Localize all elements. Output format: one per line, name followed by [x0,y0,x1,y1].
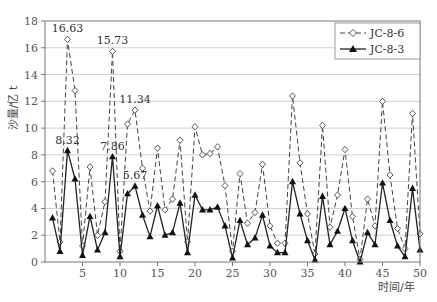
triangle-marker-icon [139,211,146,217]
value-annotation: 15.73 [97,34,129,47]
diamond-marker-icon [297,160,303,166]
diamond-marker-icon [380,98,386,104]
x-tick-label: 10 [113,267,127,280]
x-tick-label: 25 [226,267,240,280]
triangle-marker-icon [177,199,184,205]
triangle-marker-icon [297,210,304,216]
diamond-marker-icon [50,168,56,174]
triangle-marker-icon [387,217,394,223]
diamond-marker-icon [350,213,356,219]
y-tick-label: 10 [24,122,38,135]
y-tick-label: 6 [31,176,38,189]
y-tick-label: 8 [31,149,38,162]
triangle-marker-icon [267,242,274,248]
triangle-marker-icon [117,253,124,259]
y-tick-label: 0 [31,256,38,269]
diamond-marker-icon [192,124,198,130]
series-jc-8-3 [49,147,424,265]
triangle-marker-icon [184,249,191,255]
diamond-marker-icon [267,223,273,229]
triangle-marker-icon [364,229,371,235]
triangle-marker-icon [72,175,79,181]
diamond-marker-icon [387,172,393,178]
triangle-marker-icon [79,252,86,258]
diamond-marker-icon [260,161,266,167]
diamond-marker-icon [282,240,288,246]
triangle-marker-icon [147,233,154,239]
x-tick-label: 15 [151,267,165,280]
triangle-marker-icon [64,147,71,153]
diamond-marker-icon [252,209,258,215]
triangle-marker-icon [349,237,356,243]
diamond-marker-icon [87,164,93,170]
y-tick-label: 12 [24,95,38,108]
x-tick-label: 30 [263,267,277,280]
diamond-marker-icon [95,232,101,238]
legend: JC-8-6 JC-8-3 [335,23,420,59]
y-tick-label: 16 [24,42,38,55]
value-annotation: 7.86 [100,140,125,153]
x-axis-title: 时间/年 [378,280,415,294]
triangle-marker-icon [229,254,236,260]
triangle-marker-icon [214,203,221,209]
diamond-marker-icon [215,144,221,150]
x-tick-label: 35 [301,267,315,280]
diamond-marker-icon [365,196,371,202]
triangle-marker-icon [192,191,199,197]
triangle-marker-icon [334,227,341,233]
diamond-marker-icon [335,192,341,198]
diamond-marker-icon [110,48,116,54]
diamond-marker-icon [132,107,138,113]
value-annotation: 5.67 [123,169,148,182]
triangle-marker-icon [327,241,334,247]
triangle-marker-icon [304,237,311,243]
diamond-marker-icon [72,87,78,93]
x-tick-label: 45 [376,267,390,280]
triangle-marker-icon [49,214,56,220]
diamond-marker-icon [237,170,243,176]
diamond-marker-icon [410,110,416,116]
diamond-marker-icon [155,145,161,151]
y-tick-label: 4 [31,202,38,215]
diamond-marker-icon [102,199,108,205]
triangle-marker-icon [94,246,101,252]
triangle-marker-icon [169,229,176,235]
diamond-marker-icon [200,152,206,158]
legend-label-jc-8-3: JC-8-3 [369,43,404,56]
y-tick-label: 14 [24,69,38,82]
diamond-marker-icon [177,137,183,143]
diamond-marker-icon [290,93,296,99]
diamond-marker-icon [125,121,131,127]
y-tick-label: 18 [24,15,38,28]
triangle-marker-icon [342,205,349,211]
triangle-marker-icon [289,178,296,184]
legend-label-jc-8-6: JC-8-6 [369,27,404,40]
y-axis-title: 沙量/亿 t [7,85,20,130]
x-tick-label: 20 [188,267,202,280]
triangle-marker-icon [222,222,229,228]
diamond-marker-icon [65,36,71,42]
y-tick-label: 2 [31,229,38,242]
diamond-marker-icon [395,225,401,231]
x-axis-ticks: 5101520253035404550 [79,262,427,280]
triangle-marker-icon [57,247,64,253]
diamond-marker-icon [222,182,228,188]
triangle-marker-icon [109,153,116,159]
triangle-marker-icon [259,211,266,217]
x-tick-label: 5 [79,267,86,280]
triangle-marker-icon [394,242,401,248]
sediment-line-chart: 024681012141618 5101520253035404550 16.6… [0,0,437,302]
triangle-marker-icon [319,193,326,199]
diamond-marker-icon [245,220,251,226]
triangle-marker-icon [87,213,94,219]
triangle-marker-icon [409,185,416,191]
triangle-marker-icon [132,182,139,188]
value-annotation: 16.63 [52,22,84,35]
triangle-marker-icon [102,229,109,235]
diamond-marker-icon [342,146,348,152]
x-tick-label: 50 [413,267,427,280]
diamond-marker-icon [305,211,311,217]
triangle-marker-icon [237,217,244,223]
y-axis-ticks: 024681012141618 [24,15,45,269]
x-tick-label: 40 [338,267,352,280]
